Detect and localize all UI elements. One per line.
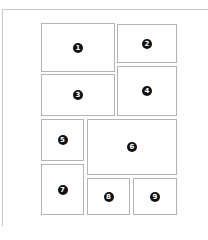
- panel-5: 5: [41, 119, 84, 161]
- panel-2: 2: [117, 24, 177, 63]
- panel-7: 7: [41, 164, 84, 215]
- number-badge-8: 8: [104, 192, 114, 202]
- panel-1: 1: [41, 23, 115, 72]
- number-badge-5: 5: [58, 135, 68, 145]
- panel-8: 8: [87, 178, 130, 215]
- number-badge-2: 2: [142, 39, 152, 49]
- number-badge-6: 6: [127, 142, 137, 152]
- panel-6: 6: [87, 119, 177, 175]
- number-badge-7: 7: [58, 185, 68, 195]
- number-badge-3: 3: [73, 90, 83, 100]
- panel-9: 9: [133, 178, 177, 215]
- panel-3: 3: [41, 74, 115, 116]
- number-badge-1: 1: [73, 43, 83, 53]
- number-badge-4: 4: [142, 86, 152, 96]
- panel-4: 4: [117, 66, 177, 116]
- number-badge-9: 9: [150, 192, 160, 202]
